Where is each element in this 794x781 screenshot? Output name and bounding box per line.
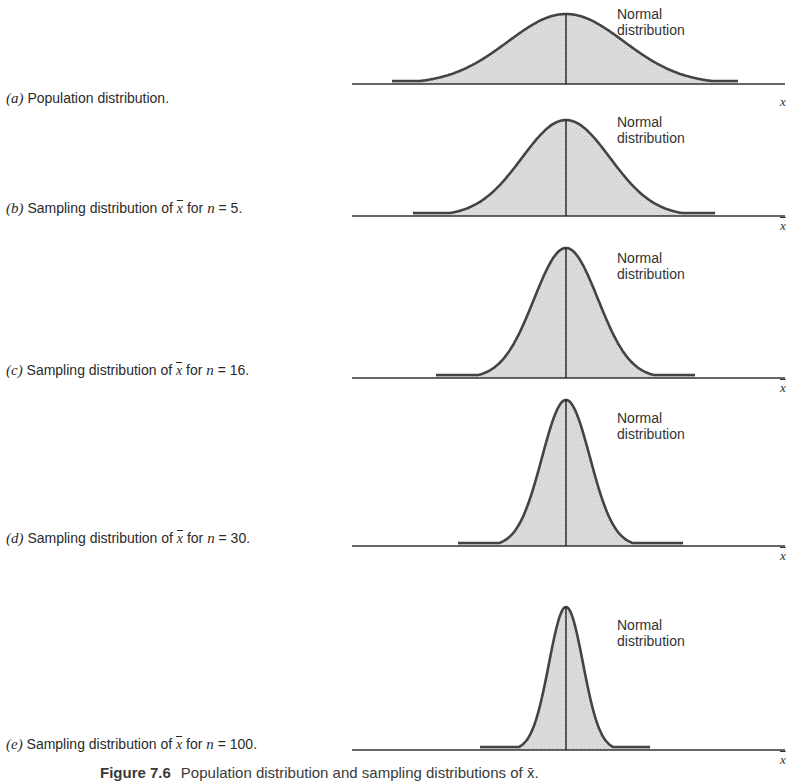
axis-label-xbar: x	[780, 218, 786, 234]
panel-letter: (b)	[6, 200, 24, 216]
normal-distribution-annotation-e: Normal distribution	[617, 617, 685, 649]
annotation-line: Normal	[617, 410, 685, 426]
panel-text: Population distribution.	[27, 90, 169, 106]
panel-a-label: (a) Population distribution.	[6, 90, 169, 107]
normal-distribution-annotation-b: Normal distribution	[617, 114, 685, 146]
normal-distribution-annotation-a: Normal distribution	[617, 6, 685, 38]
normal-distribution-annotation-c: Normal distribution	[617, 250, 685, 282]
panel-d-label: (d) Sampling distribution of x for n = 3…	[6, 530, 250, 547]
panel-n-value: = 16.	[214, 362, 249, 378]
annotation-line: Normal	[617, 114, 685, 130]
caption-label: Figure 7.6	[100, 764, 171, 781]
n-symbol: n	[206, 736, 214, 752]
panel-letter: (d)	[6, 530, 24, 546]
axis-label-xbar: x	[780, 752, 786, 768]
panel-text: for	[183, 530, 207, 546]
annotation-line: Normal	[617, 617, 685, 633]
panel-text: for	[182, 362, 206, 378]
n-symbol: n	[206, 362, 214, 378]
panel-letter: (e)	[6, 736, 23, 752]
panel-text: Sampling distribution of	[27, 362, 176, 378]
n-symbol: n	[207, 530, 215, 546]
panel-n-value: = 100.	[214, 736, 257, 752]
caption-text: Population distribution and sampling dis…	[181, 764, 539, 781]
panel-text: for	[182, 736, 206, 752]
annotation-line: distribution	[617, 130, 685, 146]
panel-n-value: = 30.	[215, 530, 250, 546]
annotation-line: distribution	[617, 633, 685, 649]
axis-label-x: x	[780, 94, 786, 110]
axis-label-xbar: x	[780, 380, 786, 396]
annotation-line: distribution	[617, 266, 685, 282]
panel-text: Sampling distribution of	[27, 200, 176, 216]
panel-text: Sampling distribution of	[27, 736, 176, 752]
panel-letter: (a)	[6, 90, 24, 106]
n-symbol: n	[207, 200, 215, 216]
axis-label-xbar: x	[780, 548, 786, 564]
annotation-line: Normal	[617, 250, 685, 266]
panel-c-label: (c) Sampling distribution of x for n = 1…	[6, 362, 249, 379]
figure-caption: Figure 7.6Population distribution and sa…	[100, 764, 539, 781]
annotation-line: distribution	[617, 22, 685, 38]
panel-e-label: (e) Sampling distribution of x for n = 1…	[6, 736, 257, 753]
normal-distribution-annotation-d: Normal distribution	[617, 410, 685, 442]
panel-text: for	[183, 200, 207, 216]
panel-text: Sampling distribution of	[27, 530, 176, 546]
panel-n-value: = 5.	[215, 200, 243, 216]
curve-fill-0	[392, 14, 738, 84]
annotation-line: Normal	[617, 6, 685, 22]
panel-b-label: (b) Sampling distribution of x for n = 5…	[6, 200, 242, 217]
panel-letter: (c)	[6, 362, 23, 378]
annotation-line: distribution	[617, 426, 685, 442]
